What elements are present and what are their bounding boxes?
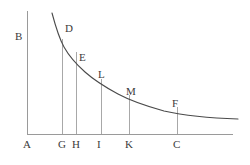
axis-point-label-H: H [72,139,80,150]
axis-point-label-K: K [125,139,133,150]
curve-point-label-D: D [65,23,73,34]
axis-point-label-G: G [58,139,66,150]
origin-label: A [23,139,31,150]
figure-container: B A D E L M F G H I K C [0,0,250,165]
y-axis-label: B [15,31,22,42]
curve-point-label-L: L [98,69,105,80]
curve-point-label-E: E [79,52,86,63]
axis-point-label-C: C [173,139,180,150]
axis-point-label-I: I [97,139,101,150]
demand-curve [52,13,238,119]
curve-point-label-F: F [172,98,178,109]
curve-point-label-M: M [126,86,136,97]
